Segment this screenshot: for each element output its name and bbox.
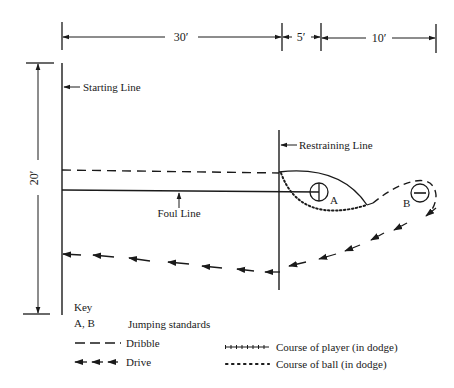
side-dimension: 20′ xyxy=(23,63,54,314)
legend-text-player-course: Course of player (in dodge) xyxy=(276,341,398,354)
dimension-10-label: 10′ xyxy=(372,31,387,45)
top-dimension: 30′ 5′ 10′ xyxy=(62,22,436,53)
legend-text-dribble: Dribble xyxy=(126,337,160,349)
jumping-standard-a: A xyxy=(310,183,338,206)
standard-b-label: B xyxy=(403,197,410,209)
foul-line-label: Foul Line xyxy=(157,207,200,219)
dimension-30-label: 30′ xyxy=(174,30,189,44)
legend-text-jumping-standards: Jumping standards xyxy=(128,318,210,330)
dimension-20-label: 20′ xyxy=(27,170,41,185)
drive-path xyxy=(63,208,436,272)
jumping-standard-b: B xyxy=(403,184,429,209)
dribble-path xyxy=(62,170,279,173)
legend: Key A, B Jumping standards Dribble Drive… xyxy=(74,301,398,371)
starting-line-label: Starting Line xyxy=(83,81,141,93)
legend-title: Key xyxy=(74,301,93,313)
restraining-line-label: Restraining Line xyxy=(299,139,373,151)
court-diagram: 30′ 5′ 10′ 20′ Starting Line Restraining… xyxy=(0,0,454,388)
legend-text-ball-course: Course of ball (in dodge) xyxy=(276,358,387,371)
legend-symbol-ab: A, B xyxy=(74,317,95,329)
dimension-5-label: 5′ xyxy=(297,30,306,44)
standard-a-label: A xyxy=(330,194,338,206)
foul-line xyxy=(62,190,319,192)
legend-text-drive: Drive xyxy=(126,356,151,368)
